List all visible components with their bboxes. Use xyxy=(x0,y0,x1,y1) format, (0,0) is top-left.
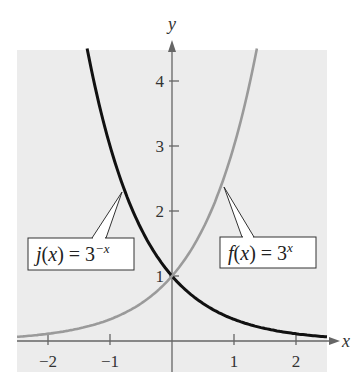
chart: xy−2−1121234 j(x) = 3−xf(x) = 3x xyxy=(0,0,356,389)
y-axis-arrow-icon xyxy=(168,40,176,52)
x-axis-label: x xyxy=(341,331,350,351)
x-tick-label: −2 xyxy=(39,352,57,371)
y-axis-label: y xyxy=(166,14,176,34)
y-tick-label: 2 xyxy=(156,202,165,221)
y-tick-label: 3 xyxy=(156,137,165,156)
x-tick-label: −1 xyxy=(101,352,119,371)
y-tick-label: 1 xyxy=(156,267,165,286)
label-f: f(x) = 3x xyxy=(228,240,293,265)
x-axis-arrow-icon xyxy=(329,337,340,345)
x-tick-label: 1 xyxy=(230,352,239,371)
x-tick-label: 2 xyxy=(292,352,301,371)
y-tick-label: 4 xyxy=(156,72,165,91)
